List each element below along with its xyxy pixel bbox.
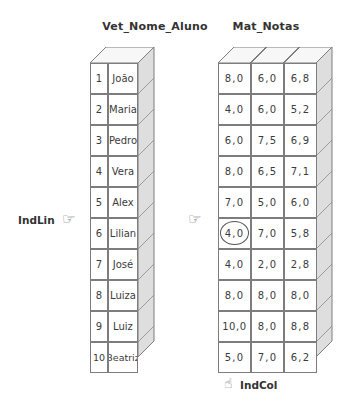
matrix-cell: 7,1 (284, 156, 317, 187)
vector-index-cell: 10 (90, 342, 108, 373)
matrix-cell: 8,0 (218, 280, 251, 311)
vector-index-cell: 4 (90, 156, 108, 187)
vector-index-cell: 9 (90, 311, 108, 342)
vector-index-cell: 7 (90, 249, 108, 280)
matrix-cell: 5,0 (251, 187, 284, 218)
vector-index-cell: 3 (90, 125, 108, 156)
matrix-cell: 8,0 (251, 280, 284, 311)
matrix-cell: 6,8 (284, 63, 317, 94)
matrix-cell: 6,5 (251, 156, 284, 187)
matrix-cell: 8,0 (218, 156, 251, 187)
matrix-cell: 6,0 (251, 94, 284, 125)
matrix-cell: 4,0 (218, 249, 251, 280)
vector-value-cell: Vera (108, 156, 138, 187)
vector-index-cell: 2 (90, 94, 108, 125)
pointing-hand-right-icon: ☞ (62, 212, 75, 227)
vector-value-cell: João (108, 63, 138, 94)
pointing-hand-right-icon: ☞ (188, 212, 201, 227)
vector-value-cell: Luiza (108, 280, 138, 311)
matrix-cell: 6,2 (284, 342, 317, 373)
column-indicator-label: IndCol (240, 379, 277, 391)
vector-value-cell: Maria (108, 94, 138, 125)
vector-index-cell: 6 (90, 218, 108, 249)
matrix-cell: 8,0 (218, 63, 251, 94)
pointing-hand-up-icon: ☝ (224, 376, 233, 390)
matrix-cell: 2,0 (251, 249, 284, 280)
matrix-cell: 2,8 (284, 249, 317, 280)
vector-title: Vet_Nome_Aluno (85, 20, 225, 33)
matrix-structure: 8,0 6,0 6,8 4,0 6,0 5,2 6,0 7,5 6,9 8,0 … (218, 47, 334, 367)
vector-value-cell: Lilian (108, 218, 138, 249)
matrix-cell: 8,8 (284, 311, 317, 342)
row-indicator-label: IndLin (18, 214, 55, 226)
vector-value-cell: Luiz (108, 311, 138, 342)
matrix-cell-highlighted: 4,0 (218, 218, 251, 249)
vector-value-cell: José (108, 249, 138, 280)
matrix-cell: 6,0 (284, 187, 317, 218)
matrix-cell: 8,0 (251, 311, 284, 342)
matrix-cell: 6,9 (284, 125, 317, 156)
vector-index-cell: 8 (90, 280, 108, 311)
matrix-title: Mat_Notas (214, 20, 318, 33)
matrix-cell: 6,0 (251, 63, 284, 94)
matrix-cell: 8,0 (284, 280, 317, 311)
matrix-cell: 7,5 (251, 125, 284, 156)
vector-index-cell: 1 (90, 63, 108, 94)
matrix-cell: 5,0 (218, 342, 251, 373)
vector-value-cell: Beatriz (108, 342, 138, 373)
vector-value-cell: Alex (108, 187, 138, 218)
matrix-cell: 7,0 (251, 218, 284, 249)
matrix-cell: 10,0 (218, 311, 251, 342)
matrix-cell: 7,0 (218, 187, 251, 218)
vector-index-cell: 5 (90, 187, 108, 218)
matrix-cell: 7,0 (251, 342, 284, 373)
vector-structure: 1 João 2 Maria 3 Pedro 4 Vera 5 Alex 6 L… (90, 47, 170, 367)
matrix-cell: 5,2 (284, 94, 317, 125)
matrix-cell: 6,0 (218, 125, 251, 156)
diagram-canvas: Vet_Nome_Aluno Mat_Notas 1 João 2 Mar (0, 0, 338, 410)
matrix-cell: 5,8 (284, 218, 317, 249)
matrix-cell: 4,0 (218, 94, 251, 125)
vector-value-cell: Pedro (108, 125, 138, 156)
